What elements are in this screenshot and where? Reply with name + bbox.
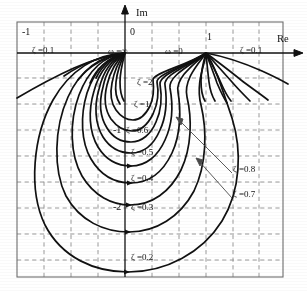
zeta-0p6-label: ζ =0.6 bbox=[126, 126, 148, 135]
tick-label-re-minus-1: -1 bbox=[22, 27, 30, 37]
zeta-0p7-label: ζ =0.7 bbox=[233, 190, 255, 199]
zeta-0p1-left-label: ζ =0.1 bbox=[32, 46, 54, 55]
imaginary-axis-label: Im bbox=[136, 8, 148, 19]
tick-label-re-1: 1 bbox=[207, 32, 212, 42]
tick-label-im-minus-1: -1 bbox=[113, 125, 121, 135]
constant-damping-loci-figure: -1 0 1 -1 -2 Im Re ω =∞ ω =0 ζ =0.1 ζ =0… bbox=[0, 0, 307, 291]
tick-label-im-minus-2: -2 bbox=[113, 202, 121, 212]
plot-canvas bbox=[0, 0, 307, 291]
zeta-0p2-label: ζ =0.2 bbox=[131, 253, 153, 262]
real-axis-label: Re bbox=[277, 34, 289, 45]
zeta-0p4-label: ζ =0.4 bbox=[131, 174, 153, 183]
tick-label-re-0: 0 bbox=[130, 27, 135, 37]
omega-infinity-label: ω =∞ bbox=[108, 47, 128, 56]
zeta-1-label: ζ =1 bbox=[134, 100, 150, 109]
zeta-0p3-label: ζ =0.3 bbox=[131, 203, 153, 212]
canvas-background bbox=[0, 0, 307, 291]
zeta-0p8-label: ζ =0.8 bbox=[233, 165, 255, 174]
zeta-0p5-label: ζ =0.5 bbox=[131, 148, 153, 157]
zeta-0p1-right-label: ζ =0.1 bbox=[240, 46, 262, 55]
omega-zero-label: ω =0 bbox=[165, 47, 183, 56]
zeta-2-label: ζ =2 bbox=[137, 78, 153, 87]
